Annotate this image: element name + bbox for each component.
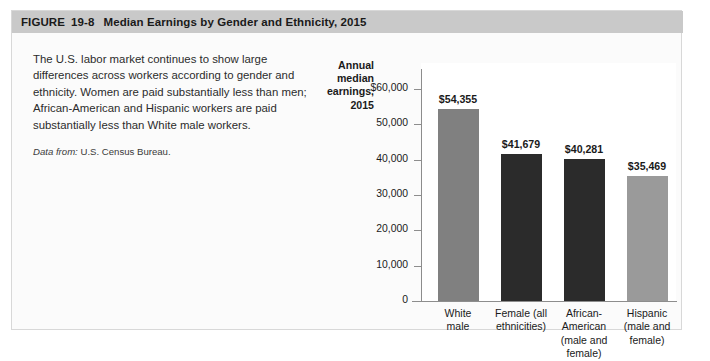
caption-column: The U.S. labor market continues to show …: [33, 51, 309, 157]
y-axis-tick: [414, 230, 422, 231]
bar-chart: Annualmedianearnings,2015 $60,00050,0004…: [312, 51, 682, 321]
figure-title: Median Earnings by Gender and Ethnicity,…: [103, 16, 366, 28]
y-axis-title-line: Annual: [312, 59, 374, 72]
y-axis-tick: [414, 89, 422, 90]
y-axis-tick: [414, 124, 422, 125]
x-axis-category-line: female): [610, 334, 684, 347]
bar-value-label: $35,469: [587, 160, 707, 172]
source-label: Data from:: [33, 146, 78, 157]
x-axis-line: [412, 301, 677, 302]
bar-value-label: $54,355: [398, 93, 518, 105]
y-axis-tick: [414, 160, 422, 161]
figure-label: FIGURE: [21, 16, 65, 28]
y-axis-tick: [414, 266, 422, 267]
y-axis-tick-label: 10,000: [336, 259, 408, 270]
y-axis-tick-label: 40,000: [336, 153, 408, 164]
figure-header-text: FIGURE19-8Median Earnings by Gender and …: [12, 16, 367, 28]
figure-container: FIGURE19-8Median Earnings by Gender and …: [11, 10, 682, 330]
bar[interactable]: [627, 176, 668, 301]
x-axis-category-label: Hispanic(male andfemale): [610, 307, 684, 347]
y-axis-tick: [414, 195, 422, 196]
y-axis-tick-label: 30,000: [336, 188, 408, 199]
figure-header: FIGURE19-8Median Earnings by Gender and …: [12, 11, 683, 33]
figure-number: 19-8: [71, 16, 94, 28]
y-axis-tick-label: 0: [336, 294, 408, 305]
caption-source: Data from: U.S. Census Bureau.: [33, 146, 309, 157]
x-axis-category-line: female): [547, 347, 621, 360]
x-axis-category-line: Hispanic: [610, 307, 684, 320]
source-value: U.S. Census Bureau.: [80, 146, 170, 157]
x-axis-category-line: (male and: [610, 320, 684, 333]
y-axis-tick-label: $60,000: [336, 82, 408, 93]
y-axis-tick-label: 50,000: [336, 117, 408, 128]
bar-value-label: $40,281: [524, 143, 644, 155]
y-axis-title-line: 2015: [312, 99, 374, 112]
bar[interactable]: [564, 159, 605, 301]
bar[interactable]: [501, 154, 542, 301]
caption-body: The U.S. labor market continues to show …: [33, 51, 309, 133]
y-axis-tick-label: 20,000: [336, 223, 408, 234]
